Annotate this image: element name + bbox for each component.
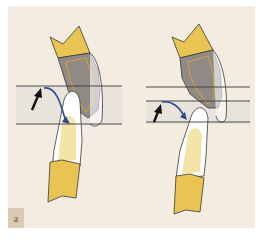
left-lower-crown xyxy=(48,160,80,202)
left-upper-crown xyxy=(50,26,90,58)
dental-diagram xyxy=(0,0,264,240)
left-upper-outline xyxy=(90,53,103,126)
left-diagram xyxy=(16,26,122,202)
panel-label: a xyxy=(14,213,18,224)
panel-label-box: a xyxy=(8,208,24,228)
right-lower-crown xyxy=(174,174,204,214)
right-diagram xyxy=(146,24,250,214)
